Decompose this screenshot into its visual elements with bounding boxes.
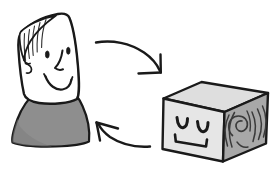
arrow-person-to-box-head-lower	[139, 73, 161, 74]
right-eye	[67, 47, 71, 54]
illustration-root: Person and wooden box exchanging somethi…	[0, 0, 274, 169]
left-eye	[45, 51, 49, 58]
sketch-canvas: Person and wooden box exchanging somethi…	[0, 0, 274, 169]
smile-right-tick	[72, 77, 73, 80]
wooden-box	[163, 82, 269, 162]
